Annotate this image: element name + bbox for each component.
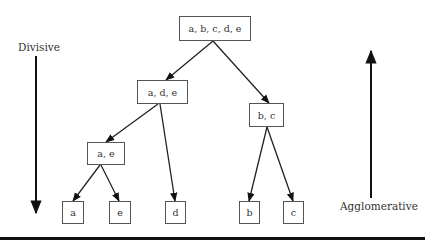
node-ade: a, d, e xyxy=(137,80,188,104)
node-ae: a, e xyxy=(87,142,125,165)
edge-ade-d xyxy=(160,104,175,201)
edge-root-ade xyxy=(166,41,213,80)
node-d: d xyxy=(165,201,186,224)
edge-bc-b xyxy=(249,127,267,201)
edge-ae-e xyxy=(101,165,119,201)
edge-bc-c xyxy=(267,127,293,201)
node-bc: b, c xyxy=(249,103,284,127)
node-a: a xyxy=(62,201,84,224)
divisive-label: Divisive xyxy=(18,41,60,53)
node-c: c xyxy=(283,201,304,224)
edge-ae-a xyxy=(73,165,100,201)
bottom-rule xyxy=(0,237,425,240)
edge-root-bc xyxy=(213,41,269,103)
node-b: b xyxy=(239,201,260,224)
edge-ade-ae xyxy=(106,104,158,142)
node-root: a, b, c, d, e xyxy=(179,16,251,41)
node-e: e xyxy=(109,201,131,224)
agglomerative-label: Agglomerative xyxy=(340,200,418,212)
